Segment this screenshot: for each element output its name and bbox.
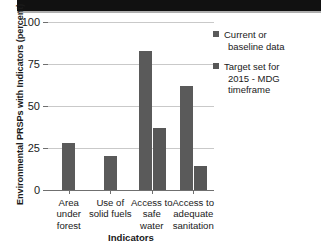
bar-current-1: [104, 156, 117, 190]
chart-root: Environmental PRSPs with Indicators (per…: [0, 0, 321, 246]
y-tick-label-0: 0: [34, 184, 40, 196]
x-axis-title: Indicators: [48, 232, 214, 243]
y-tick-50: [43, 106, 48, 107]
plot-area: 0255075100: [48, 22, 214, 190]
gridline-75: [48, 64, 214, 65]
bar-current-0: [62, 143, 75, 190]
legend-label-line: 2015 - MDG timeframe: [224, 73, 321, 96]
y-tick-label-100: 100: [22, 16, 40, 28]
y-tick-label-75: 75: [28, 58, 40, 70]
x-tick-3: [193, 190, 194, 194]
bar-target-3: [194, 166, 207, 190]
x-category-label-line: forest: [44, 220, 94, 231]
y-tick-75: [43, 64, 48, 65]
x-tick-0: [69, 190, 70, 194]
gridline-100: [48, 22, 214, 23]
legend-swatch-icon: [213, 31, 219, 37]
y-tick-100: [43, 22, 48, 23]
legend-entry-1[interactable]: Target set for2015 - MDG timeframe: [213, 61, 321, 96]
x-tick-2: [152, 190, 153, 194]
legend-entry-0[interactable]: Current orbaseline data: [213, 29, 321, 52]
page-edge-band-shadow: [17, 11, 321, 13]
y-tick-label-50: 50: [28, 100, 40, 112]
legend-swatch-icon: [213, 63, 219, 69]
bar-current-2: [139, 51, 152, 190]
bar-current-3: [180, 86, 193, 190]
x-axis-line: [48, 190, 214, 191]
y-axis-title: Environmental PRSPs with Indicators (per…: [15, 15, 25, 205]
bar-target-2: [153, 128, 166, 190]
x-category-label-line: Access to: [169, 197, 219, 208]
x-category-label-line: adequate: [169, 208, 219, 219]
y-tick-0: [43, 190, 48, 191]
x-category-label-3: Access toadequatesanitation: [169, 197, 219, 231]
chart-legend: Current orbaseline dataTarget set for201…: [213, 29, 321, 105]
legend-label-line: baseline data: [224, 41, 321, 53]
legend-label-line: Current or: [224, 29, 321, 41]
x-category-label-line: sanitation: [169, 220, 219, 231]
legend-label-line: Target set for: [224, 61, 321, 73]
x-tick-1: [110, 190, 111, 194]
page-edge-band: [17, 0, 321, 11]
y-tick-label-25: 25: [28, 142, 40, 154]
y-tick-25: [43, 148, 48, 149]
